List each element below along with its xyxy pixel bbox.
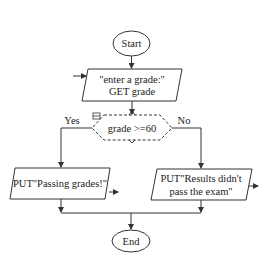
- decision-bottom-connector-icon: [129, 140, 135, 143]
- input-get-text: GET grade: [109, 86, 156, 97]
- arrow-yes-branch: [61, 128, 92, 167]
- decision-node: grade >=60: [92, 111, 172, 143]
- input-prompt-text: "enter a grade:": [99, 74, 165, 85]
- end-label: End: [123, 236, 141, 247]
- input-node: "enter a grade:" GET grade: [82, 69, 182, 101]
- no-output-node: PUT"Results didn't pass the exam": [151, 169, 252, 200]
- yes-label: Yes: [64, 115, 79, 126]
- arrow-no-branch: [172, 128, 201, 168]
- no-label: No: [178, 115, 191, 126]
- start-label: Start: [122, 38, 142, 49]
- no-output-text-line1: PUT"Results didn't: [160, 173, 241, 184]
- yes-output-node: PUT"Passing grades!": [10, 168, 110, 199]
- decision-condition: grade >=60: [108, 123, 156, 134]
- flowchart-diagram: Start "enter a grade:" GET grade grade >…: [0, 0, 272, 261]
- yes-output-text: PUT"Passing grades!": [13, 178, 107, 189]
- end-node: End: [112, 230, 150, 252]
- start-node: Start: [113, 31, 150, 56]
- no-output-text-line2: pass the exam": [169, 186, 232, 197]
